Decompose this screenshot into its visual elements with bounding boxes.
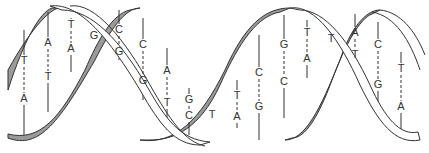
base-label-top: C bbox=[374, 38, 382, 50]
base-label-bottom: T bbox=[45, 70, 52, 82]
base-label-top: T bbox=[304, 26, 311, 38]
base-label-top: G bbox=[185, 93, 194, 105]
base-label-top: C bbox=[255, 66, 263, 78]
base-label-bottom: A bbox=[233, 110, 241, 122]
base-label-top: A bbox=[163, 64, 171, 76]
base-label-top: T bbox=[68, 18, 75, 30]
base-label-bottom: A bbox=[20, 92, 28, 104]
crossover-base-label: T bbox=[328, 32, 335, 44]
base-label-bottom: A bbox=[67, 42, 75, 54]
base-label-top: T bbox=[398, 62, 405, 74]
base-label-bottom: C bbox=[185, 109, 193, 121]
crossover-base-label: G bbox=[90, 29, 99, 41]
base-label-top: A bbox=[44, 36, 52, 48]
base-label-bottom: G bbox=[115, 45, 124, 57]
base-pair-rungs bbox=[24, 10, 401, 140]
base-label-bottom: G bbox=[374, 78, 383, 90]
front-strand bbox=[50, 6, 425, 146]
base-label-bottom: T bbox=[352, 48, 359, 60]
base-label-top: C bbox=[115, 23, 123, 35]
base-label-bottom: A bbox=[303, 52, 311, 64]
base-label-top: C bbox=[139, 38, 147, 50]
base-label-top: A bbox=[351, 26, 359, 38]
base-label-bottom: G bbox=[255, 100, 264, 112]
helix-graphic: TAATTACGCGATGCTACGGCTAATCGTAGTT bbox=[0, 0, 429, 153]
base-label-top: T bbox=[234, 89, 241, 101]
base-label-bottom: G bbox=[139, 74, 148, 86]
base-label-bottom: T bbox=[164, 96, 171, 108]
base-label-bottom: A bbox=[397, 100, 405, 112]
crossover-base-label: T bbox=[209, 108, 216, 120]
base-label-top: G bbox=[280, 38, 289, 50]
base-label-top: T bbox=[21, 54, 28, 66]
dna-helix-diagram: TAATTACGCGATGCTACGGCTAATCGTAGTT bbox=[0, 0, 429, 153]
base-label-bottom: C bbox=[280, 75, 288, 87]
